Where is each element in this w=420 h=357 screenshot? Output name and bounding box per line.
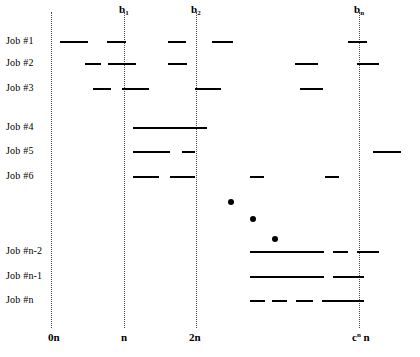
ellipsis-dot-1	[228, 199, 234, 205]
x-axis-label-3: 2n	[189, 332, 201, 343]
top-tick-subscript: 1	[125, 9, 129, 17]
top-tick-label-3: bn	[354, 4, 364, 17]
x-axis-label-2: n	[121, 332, 127, 343]
job-segment	[122, 88, 149, 90]
top-tick-label-1: b1	[119, 4, 129, 17]
job-segment	[85, 63, 101, 65]
x-axis-label-1: 0n	[48, 332, 60, 343]
job-segment	[250, 300, 265, 302]
x-axis-label-base: 0n	[48, 331, 60, 343]
job-segment	[168, 41, 186, 43]
job-segment	[272, 300, 287, 302]
job-segment	[133, 151, 170, 153]
job-segment	[133, 127, 207, 129]
job-segment	[212, 41, 233, 43]
job-segment	[357, 251, 379, 253]
top-tick-subscript: n	[360, 9, 364, 17]
job-segment	[93, 88, 111, 90]
x-axis-label-base: n	[121, 331, 127, 343]
job-segment	[348, 41, 367, 43]
x-axis-label-suffix: n	[361, 331, 370, 343]
job-segment	[250, 276, 324, 278]
job-segment	[296, 300, 313, 302]
job-segment	[357, 63, 379, 65]
job-segment	[333, 276, 364, 278]
ellipsis-dot-2	[250, 216, 256, 222]
job-segment	[333, 251, 348, 253]
row-label-3: Job #3	[6, 83, 34, 93]
top-tick-subscript: 2	[197, 9, 201, 17]
x-axis-label-base: 2n	[189, 331, 201, 343]
row-label-7: Job #n-2	[6, 246, 42, 256]
row-label-6: Job #6	[6, 171, 34, 181]
x-axis-label-4: cn n	[352, 332, 370, 345]
job-segment	[250, 176, 264, 178]
row-label-1: Job #1	[6, 36, 34, 46]
guide-cn	[359, 12, 360, 328]
ellipsis-dot-3	[272, 236, 278, 242]
guide-n	[124, 12, 125, 328]
guide-0n	[51, 12, 52, 328]
job-segment	[108, 63, 136, 65]
job-segment	[325, 176, 339, 178]
job-schedule-figure: b1b2bn0nn2ncn nJob #1Job #2Job #3Job #4J…	[0, 0, 420, 357]
guide-2n	[196, 12, 197, 328]
job-segment	[295, 63, 318, 65]
job-segment	[182, 151, 195, 153]
row-label-9: Job #n	[6, 295, 34, 305]
job-segment	[133, 176, 159, 178]
job-segment	[168, 63, 187, 65]
top-tick-label-2: b2	[191, 4, 201, 17]
row-label-4: Job #4	[6, 122, 34, 132]
x-axis-label-superscript: n	[357, 331, 361, 339]
job-segment	[300, 88, 323, 90]
row-label-8: Job #n-1	[6, 271, 42, 281]
job-segment	[170, 176, 195, 178]
job-segment	[195, 88, 221, 90]
job-segment	[60, 41, 88, 43]
job-segment	[322, 300, 364, 302]
row-label-5: Job #5	[6, 146, 34, 156]
row-label-2: Job #2	[6, 58, 34, 68]
job-segment	[107, 41, 126, 43]
job-segment	[250, 251, 324, 253]
job-segment	[373, 151, 401, 153]
